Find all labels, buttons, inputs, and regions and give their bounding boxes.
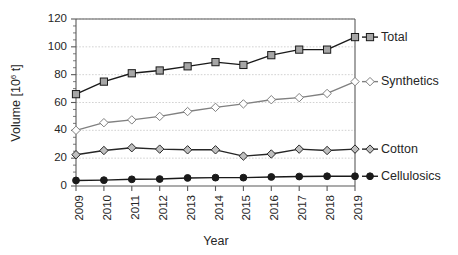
- data-point-marker: [128, 176, 135, 183]
- data-point-marker: [267, 150, 275, 158]
- data-point-marker: [156, 112, 164, 120]
- y-axis-tick-label: 60: [54, 96, 67, 108]
- data-point-marker: [366, 145, 374, 153]
- legend-item-label: Synthetics: [381, 74, 439, 88]
- x-axis-tick-label: 2009: [73, 195, 85, 221]
- data-point-marker: [211, 103, 219, 111]
- legend-item-total[interactable]: Total: [362, 30, 407, 44]
- y-axis-tick-label: 100: [48, 40, 67, 52]
- data-point-marker: [183, 146, 191, 154]
- x-axis-tick-label: 2018: [324, 195, 336, 221]
- data-point-marker: [295, 145, 303, 153]
- data-point-marker: [351, 33, 358, 40]
- data-point-marker: [323, 146, 331, 154]
- data-point-marker: [183, 107, 191, 115]
- data-point-marker: [156, 145, 164, 153]
- data-series-group: [72, 33, 359, 183]
- data-point-marker: [296, 173, 303, 180]
- x-axis-tick-label: 2016: [268, 195, 280, 221]
- y-axis-tick-labels: 020406080100120: [48, 12, 67, 191]
- data-point-marker: [72, 91, 79, 98]
- chart-legend: TotalSyntheticsCottonCellulosics: [362, 30, 441, 183]
- series-cotton: [72, 144, 359, 161]
- data-point-marker: [128, 144, 136, 152]
- legend-item-cellulosics[interactable]: Cellulosics: [362, 169, 441, 183]
- data-point-marker: [156, 67, 163, 74]
- data-point-marker: [100, 118, 108, 126]
- data-point-marker: [351, 77, 359, 85]
- legend-item-cotton[interactable]: Cotton: [362, 142, 418, 156]
- y-axis-tick-label: 40: [54, 123, 67, 135]
- legend-item-label: Total: [381, 30, 407, 44]
- data-point-marker: [367, 173, 374, 180]
- x-axis-tick-label: 2017: [296, 195, 308, 221]
- data-point-marker: [296, 46, 303, 53]
- x-axis-title: Year: [203, 234, 228, 248]
- data-point-marker: [295, 93, 303, 101]
- data-point-marker: [184, 175, 191, 182]
- data-point-marker: [100, 146, 108, 154]
- data-point-marker: [366, 33, 373, 40]
- data-point-marker: [239, 152, 247, 160]
- data-point-marker: [268, 174, 275, 181]
- x-axis-tick-label: 2010: [101, 195, 113, 221]
- data-point-marker: [184, 63, 191, 70]
- data-point-marker: [351, 145, 359, 153]
- data-point-marker: [156, 176, 163, 183]
- x-axis-tick-label: 2019: [352, 195, 364, 221]
- data-point-marker: [324, 173, 331, 180]
- x-axis-tick-label: 2012: [157, 195, 169, 221]
- y-axis-tick-label: 80: [54, 68, 67, 80]
- x-axis-tick-labels: 2009201020112012201320142015201620172018…: [73, 194, 364, 220]
- data-point-marker: [240, 61, 247, 68]
- data-point-marker: [73, 177, 80, 184]
- data-point-marker: [128, 70, 135, 77]
- gridlines-group: [76, 19, 355, 158]
- legend-item-synthetics[interactable]: Synthetics: [362, 74, 439, 88]
- y-axis-title: Volume [106 t]: [9, 64, 24, 141]
- data-point-marker: [324, 46, 331, 53]
- legend-item-label: Cellulosics: [381, 169, 441, 183]
- data-point-marker: [352, 173, 359, 180]
- x-axis-tick-label: 2011: [129, 195, 141, 220]
- x-axis-tick-label: 2014: [213, 194, 225, 220]
- data-point-marker: [240, 174, 247, 181]
- data-point-marker: [239, 100, 247, 108]
- data-point-marker: [268, 52, 275, 59]
- legend-item-label: Cotton: [381, 142, 418, 156]
- data-point-marker: [211, 146, 219, 154]
- data-point-marker: [212, 59, 219, 66]
- chart-container: 020406080100120 200920102011201220132014…: [0, 0, 458, 255]
- data-point-marker: [323, 89, 331, 97]
- y-axis-tick-label: 0: [61, 179, 67, 191]
- line-chart: 020406080100120 200920102011201220132014…: [0, 0, 458, 255]
- data-point-marker: [366, 77, 374, 85]
- x-axis-tick-label: 2015: [240, 195, 252, 221]
- data-point-marker: [212, 174, 219, 181]
- series-total: [72, 33, 358, 97]
- y-axis-tick-label: 20: [54, 151, 67, 163]
- y-axis-tick-label: 120: [48, 12, 67, 24]
- series-synthetics: [72, 77, 359, 134]
- data-point-marker: [128, 116, 136, 124]
- data-point-marker: [100, 78, 107, 85]
- data-point-marker: [101, 177, 108, 184]
- x-axis-tick-label: 2013: [185, 195, 197, 221]
- data-point-marker: [72, 126, 80, 134]
- series-cellulosics: [73, 173, 359, 184]
